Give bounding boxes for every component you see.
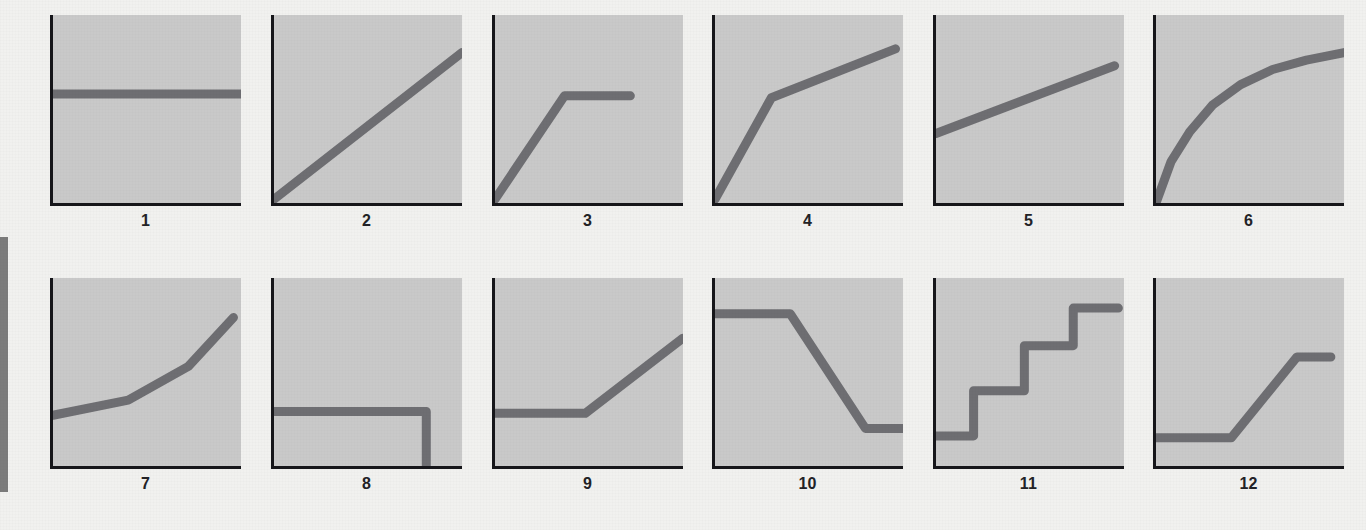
plot-canvas-4 <box>712 15 903 206</box>
plot-cell-2: 2 <box>271 0 491 250</box>
mini-plot-11[interactable] <box>933 278 1124 469</box>
mini-plot-3[interactable] <box>492 15 683 206</box>
plot-canvas-11 <box>933 278 1124 469</box>
plot-caption-10: 10 <box>712 475 903 493</box>
plot-background-5 <box>933 15 1124 206</box>
plot-caption-12: 12 <box>1153 475 1344 493</box>
mini-plot-2[interactable] <box>271 15 462 206</box>
plot-cell-11: 11 <box>933 263 1153 513</box>
plot-cell-7: 7 <box>50 263 270 513</box>
plot-caption-5: 5 <box>933 212 1124 230</box>
mini-plot-12[interactable] <box>1153 278 1344 469</box>
plot-caption-8: 8 <box>271 475 462 493</box>
plot-caption-6: 6 <box>1153 212 1344 230</box>
plot-canvas-8 <box>271 278 462 469</box>
mini-plot-7[interactable] <box>50 278 241 469</box>
plot-caption-2: 2 <box>271 212 462 230</box>
plot-background-8 <box>271 278 462 469</box>
plot-caption-11: 11 <box>933 475 1124 493</box>
plot-caption-4: 4 <box>712 212 903 230</box>
mini-plot-6[interactable] <box>1153 15 1344 206</box>
panel-row-top: 123456 <box>0 0 1366 250</box>
plot-cell-3: 3 <box>492 0 712 250</box>
plot-background-4 <box>712 15 903 206</box>
mini-plot-10[interactable] <box>712 278 903 469</box>
plot-cell-5: 5 <box>933 0 1153 250</box>
plot-canvas-6 <box>1153 15 1344 206</box>
mini-plot-1[interactable] <box>50 15 241 206</box>
mini-plot-8[interactable] <box>271 278 462 469</box>
panel-row-bottom: 789101112 <box>0 263 1366 513</box>
plot-cell-8: 8 <box>271 263 491 513</box>
plot-background-1 <box>50 15 241 206</box>
plot-cell-9: 9 <box>492 263 712 513</box>
plot-canvas-1 <box>50 15 241 206</box>
mini-plot-5[interactable] <box>933 15 1124 206</box>
plot-caption-1: 1 <box>50 212 241 230</box>
plot-canvas-9 <box>492 278 683 469</box>
plot-cell-10: 10 <box>712 263 932 513</box>
plot-cell-1: 1 <box>50 0 270 250</box>
mini-plot-4[interactable] <box>712 15 903 206</box>
plot-canvas-7 <box>50 278 241 469</box>
plot-background-9 <box>492 278 683 469</box>
mini-plot-9[interactable] <box>492 278 683 469</box>
plot-background-10 <box>712 278 903 469</box>
plot-cell-12: 12 <box>1153 263 1366 513</box>
plot-background-6 <box>1153 15 1344 206</box>
plot-canvas-10 <box>712 278 903 469</box>
plot-canvas-5 <box>933 15 1124 206</box>
plot-canvas-12 <box>1153 278 1344 469</box>
plot-caption-9: 9 <box>492 475 683 493</box>
plot-canvas-2 <box>271 15 462 206</box>
left-margin-bar <box>0 237 8 492</box>
plot-caption-7: 7 <box>50 475 241 493</box>
plot-caption-3: 3 <box>492 212 683 230</box>
plot-cell-6: 6 <box>1153 0 1366 250</box>
plot-canvas-3 <box>492 15 683 206</box>
plot-cell-4: 4 <box>712 0 932 250</box>
plot-background-7 <box>50 278 241 469</box>
figure-page: 123456 789101112 <box>0 0 1366 530</box>
plot-background-3 <box>492 15 683 206</box>
